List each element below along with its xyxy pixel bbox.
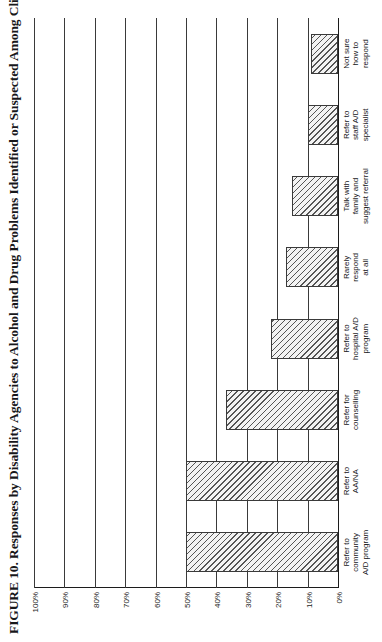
category-label-line: Refer to <box>342 89 351 160</box>
value-tick-label: 100% <box>31 592 40 612</box>
category-label-line: specialist <box>361 89 370 160</box>
category-label: Refer forcounselling <box>342 374 361 445</box>
category-label-line: staff A/D <box>351 89 360 160</box>
value-tick-label: 40% <box>213 592 222 608</box>
category-label-line: Refer to <box>342 303 351 374</box>
bar <box>292 176 338 216</box>
bars-layer <box>34 18 338 588</box>
value-tick-label: 90% <box>61 592 70 608</box>
bar <box>311 34 338 74</box>
figure-title: FIGURE 10. Responses by Disability Agenc… <box>6 4 22 634</box>
category-label-line: Rarely <box>342 232 351 303</box>
bar <box>226 390 338 430</box>
bar <box>271 319 338 359</box>
category-label-line: respond <box>351 232 360 303</box>
category-label-line: Talk with <box>342 161 351 232</box>
bar <box>186 461 338 501</box>
category-label: Rarelyrespondat all <box>342 232 370 303</box>
bar <box>308 105 338 145</box>
value-tick-label: 50% <box>183 592 192 608</box>
category-label-line: Refer for <box>342 374 351 445</box>
value-tick-label: 20% <box>274 592 283 608</box>
value-tick-label: 80% <box>91 592 100 608</box>
figure-container: FIGURE 10. Responses by Disability Agenc… <box>0 0 382 642</box>
gridline-0pct: 0% <box>338 18 339 588</box>
category-label-line: family and <box>351 161 360 232</box>
category-label-line: A/D program <box>361 517 370 588</box>
plot-area: 100%90%80%70%60%50%40%30%20%10%0% <box>34 18 338 588</box>
category-label-line: how to <box>351 18 360 89</box>
category-label-line: Refer to <box>342 517 351 588</box>
bar <box>286 247 338 287</box>
category-label: Refer tohospital A/Dprogram <box>342 303 370 374</box>
category-label-line: respond <box>361 18 370 89</box>
category-label: Refer tocommunityA/D program <box>342 517 370 588</box>
category-label-line: program <box>361 303 370 374</box>
bar <box>186 532 338 572</box>
value-tick-label: 70% <box>122 592 131 608</box>
category-label-line: AA/NA <box>351 446 360 517</box>
category-label: Refer tostaff A/Dspecialist <box>342 89 370 160</box>
category-label-line: hospital A/D <box>351 303 360 374</box>
category-label-line: Refer to <box>342 446 351 517</box>
value-tick-label: 30% <box>243 592 252 608</box>
value-tick-label: 60% <box>152 592 161 608</box>
category-label-line: at all <box>361 232 370 303</box>
category-axis-labels: Refer tocommunityA/D programRefer toAA/N… <box>340 18 380 588</box>
category-label: Refer toAA/NA <box>342 446 361 517</box>
category-label-line: suggest referral <box>361 161 370 232</box>
category-label-line: community <box>351 517 360 588</box>
value-tick-label: 0% <box>335 592 344 604</box>
category-label: Not surehow torespond <box>342 18 370 89</box>
value-tick-label: 10% <box>304 592 313 608</box>
category-label: Talk withfamily andsuggest referral <box>342 161 370 232</box>
category-label-line: Not sure <box>342 18 351 89</box>
category-label-line: counselling <box>351 374 360 445</box>
